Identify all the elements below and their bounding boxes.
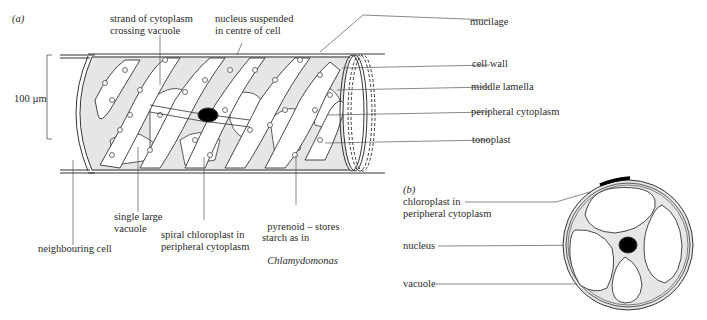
panel-a-tag: (a) bbox=[12, 13, 24, 25]
scale-bar-label: 100 µm bbox=[14, 93, 47, 105]
nucleus bbox=[198, 108, 218, 122]
label-spiral-chloroplast: spiral chloroplast in peripheral cytopla… bbox=[161, 229, 249, 252]
label-single-large-vacuole: single large vacuole bbox=[114, 211, 163, 234]
label-cell-wall: cell wall bbox=[472, 58, 508, 70]
label-pyrenoid-text: pyrenoid – stores starch as in bbox=[262, 221, 340, 244]
cross-section bbox=[563, 178, 693, 310]
label-pyrenoid-genus: Chlamydomonas bbox=[267, 255, 338, 266]
scale-bar bbox=[47, 55, 52, 139]
label-middle-lamella: middle lamella bbox=[471, 81, 534, 93]
label-strand-of-cytoplasm: strand of cytoplasm crossing vacuole bbox=[110, 13, 193, 36]
label-chloroplast-b: chloroplast in peripheral cytoplasm bbox=[403, 196, 491, 219]
label-pyrenoid: pyrenoid – stores starch as in Chlamydom… bbox=[262, 209, 340, 267]
label-nucleus-b: nucleus bbox=[403, 240, 435, 252]
label-peripheral-cytoplasm: peripheral cytoplasm bbox=[471, 106, 559, 118]
label-vacuole-b: vacuole bbox=[403, 278, 436, 290]
label-mucilage: mucilage bbox=[470, 16, 508, 28]
label-neighbouring-cell: neighbouring cell bbox=[38, 243, 112, 255]
label-tonoplast: tonoplast bbox=[472, 134, 511, 146]
label-nucleus-suspended: nucleus suspended in centre of cell bbox=[215, 13, 293, 36]
panel-b-tag: (b) bbox=[403, 184, 415, 196]
spirogyra-diagram bbox=[0, 0, 707, 320]
filament-cell bbox=[60, 54, 385, 173]
